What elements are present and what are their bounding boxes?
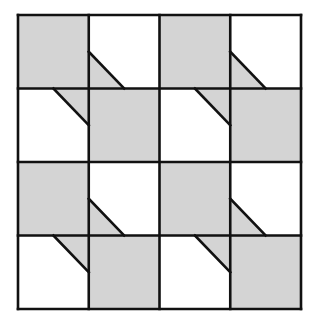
shaded-cell	[18, 162, 89, 236]
shaded-cell	[160, 15, 231, 89]
shaded-cell	[230, 89, 301, 163]
shaded-cell	[230, 236, 301, 310]
shaded-cell	[89, 89, 160, 163]
quilt-pattern-diagram	[0, 0, 318, 325]
shaded-cell	[18, 15, 89, 89]
shaded-cell	[160, 162, 231, 236]
shaded-cell	[89, 236, 160, 310]
